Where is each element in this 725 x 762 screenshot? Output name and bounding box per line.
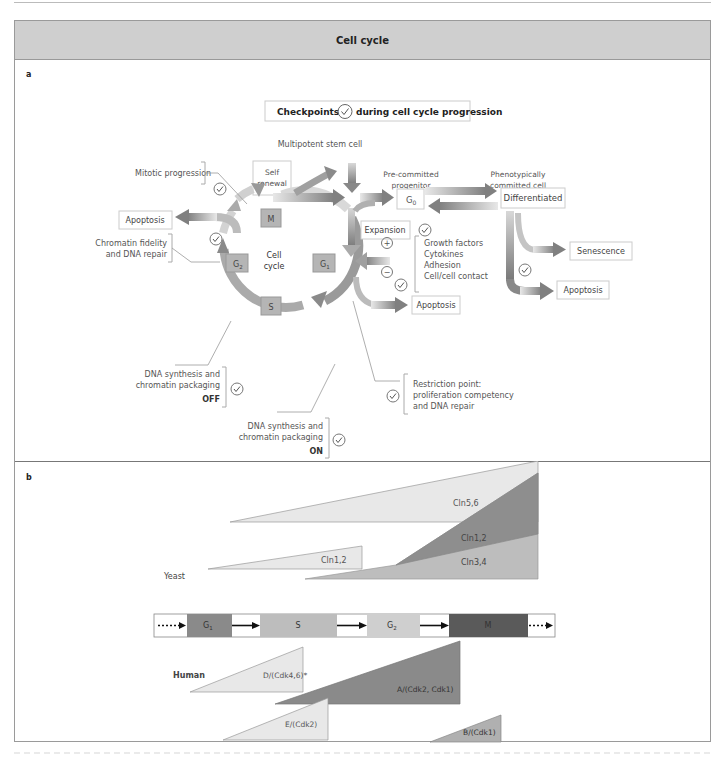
human-b-label: B/(Cdk1) <box>463 728 496 737</box>
svg-text:S: S <box>295 621 300 630</box>
human-label: Human <box>173 671 205 680</box>
phenotypic-line1: Phenotypically <box>491 170 546 179</box>
top-rule <box>14 2 711 3</box>
dna-off-state: OFF <box>202 395 220 404</box>
yeast-cln12-early-label: Cln1,2 <box>321 556 347 565</box>
cell-cycle-line2: cycle <box>264 262 285 271</box>
mitotic-check-icon <box>214 183 226 195</box>
svg-text:M: M <box>268 215 275 224</box>
legend-suffix: during cell cycle progression <box>356 107 502 117</box>
dna-off-line1: DNA synthesis and <box>145 370 220 379</box>
panel-b-diagram: Yeast Cln5,6 Cln1,2 Cln1,2 Cln3,4 G1 S G… <box>15 461 712 743</box>
svg-text:M: M <box>485 621 492 630</box>
yeast-cln34-label: Cln3,4 <box>461 558 487 567</box>
yeast-cln12-late-label: Cln1,2 <box>461 534 487 543</box>
chromatin-check-icon <box>210 233 222 245</box>
dna-off-check-icon <box>231 383 243 395</box>
svg-text:Adhesion: Adhesion <box>424 261 461 270</box>
dna-on-check-icon <box>333 434 345 446</box>
legend-prefix: Checkpoints <box>277 107 339 117</box>
human-d-label: D/(Cdk4,6)* <box>263 671 307 680</box>
self-renewal-line1: Self <box>265 168 279 177</box>
caption-placeholder <box>14 752 711 754</box>
restriction-check-icon <box>387 390 399 402</box>
svg-text:Cell/cell contact: Cell/cell contact <box>424 272 488 281</box>
chromatin-line1: Chromatin fidelity <box>95 239 167 248</box>
multipotent-label: Multipotent stem cell <box>278 140 363 149</box>
phase-s-box: S <box>261 297 281 315</box>
svg-text:−: − <box>384 268 391 277</box>
cell-cycle-line1: Cell <box>267 251 282 260</box>
figure-frame: Cell cycle a b Checkpoints during ce <box>14 20 711 742</box>
apoptosis-left-label: Apoptosis <box>125 216 164 225</box>
mitotic-label: Mitotic progression <box>135 169 211 178</box>
precommitted-line1: Pre-committed <box>383 170 439 179</box>
restriction-line3: and DNA repair <box>413 402 475 411</box>
svg-text:S: S <box>268 303 273 312</box>
human-e-label: E/(Cdk2) <box>285 720 317 729</box>
factors-list: Growth factors Cytokines Adhesion Cell/c… <box>424 239 488 281</box>
checkpoint-legend: Checkpoints during cell cycle progressio… <box>265 101 502 121</box>
dna-on-state: ON <box>310 447 324 456</box>
phase-m-box: M <box>261 209 281 227</box>
differentiated-check-icon <box>519 264 531 276</box>
senescence-label: Senescence <box>577 247 625 256</box>
restriction-line2: proliferation competency <box>413 391 514 400</box>
phase-g1-box: G1 <box>313 254 335 272</box>
apoptosis-mid-label: Apoptosis <box>416 301 455 310</box>
panel-a-diagram: Checkpoints during cell cycle progressio… <box>15 21 712 461</box>
svg-text:Growth factors: Growth factors <box>424 239 483 248</box>
yeast-label: Yeast <box>163 572 185 581</box>
factors-check-icon <box>395 279 407 291</box>
apoptosis-right-label: Apoptosis <box>563 286 602 295</box>
dna-on-line1: DNA synthesis and <box>248 422 323 431</box>
phase-bar: G1 S G2 M <box>154 614 555 637</box>
yeast-cln56-label: Cln5,6 <box>453 499 479 508</box>
expansion-check-icon <box>419 224 431 236</box>
restriction-line1: Restriction point: <box>413 380 481 389</box>
dna-off-line2: chromatin packaging <box>136 381 220 390</box>
differentiated-label: Differentiated <box>504 193 563 203</box>
human-d-triangle <box>190 647 303 692</box>
human-a-label: A/(Cdk2, Cdk1) <box>397 685 454 694</box>
svg-text:Cytokines: Cytokines <box>424 250 463 259</box>
chromatin-line2: and DNA repair <box>106 250 168 259</box>
expansion-label: Expansion <box>364 226 405 235</box>
phase-g2-box: G2 <box>226 254 248 272</box>
dna-on-line2: chromatin packaging <box>239 433 323 442</box>
svg-text:+: + <box>384 239 391 248</box>
